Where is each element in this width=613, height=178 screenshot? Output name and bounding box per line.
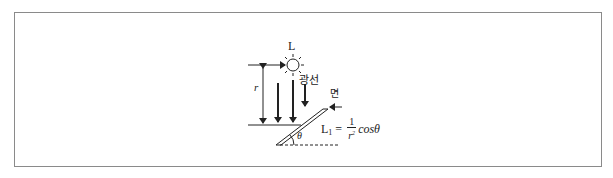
rays-label: 광선 <box>299 75 319 86</box>
surface-label: 면 <box>330 89 339 99</box>
formula-fraction: 1 r2 <box>347 117 356 141</box>
illumination-diagram <box>0 0 613 178</box>
source-label: L <box>288 40 295 52</box>
distance-label: r <box>254 82 258 93</box>
formula-trig: cosθ <box>358 122 380 137</box>
illuminance-formula: L1 = 1 r2 cosθ <box>321 117 380 141</box>
angle-label: θ <box>297 131 302 141</box>
formula-lhs: L1 <box>321 122 332 137</box>
formula-equals: = <box>335 122 342 137</box>
sun-icon <box>282 54 304 76</box>
